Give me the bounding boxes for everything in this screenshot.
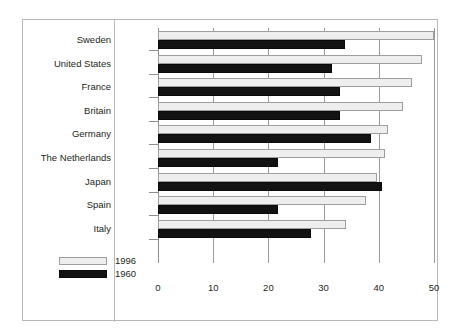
category-label-britain: Britain <box>23 106 111 116</box>
x-tick-label-30: 30 <box>309 282 339 293</box>
category-label-sweden: Sweden <box>23 35 111 45</box>
legend-label-1960: 1960 <box>115 268 136 279</box>
category-tick-2 <box>149 97 158 98</box>
chart-page: SwedenUnited StatesFranceBritainGermanyT… <box>0 0 458 335</box>
category-label-germany: Germany <box>23 129 111 139</box>
category-tick-7 <box>149 215 158 216</box>
category-label-united-states: United States <box>23 59 111 69</box>
bar-1996-the-netherlands <box>158 149 385 158</box>
x-tick-label-0: 0 <box>143 282 173 293</box>
category-tick-0 <box>149 50 158 51</box>
category-label-france: France <box>23 82 111 92</box>
category-tick-8 <box>149 239 158 240</box>
dark-bar-swatch <box>59 270 107 278</box>
bar-1960-sweden <box>158 40 345 49</box>
plot-area: 01020304050 <box>114 20 439 322</box>
x-tick-label-40: 40 <box>364 282 394 293</box>
category-tick-3 <box>149 121 158 122</box>
x-tick-label-50: 50 <box>419 282 449 293</box>
bar-1996-japan <box>158 173 377 182</box>
bar-1960-britain <box>158 111 340 120</box>
category-label-the-netherlands: The Netherlands <box>23 153 111 163</box>
bar-1996-germany <box>158 125 388 134</box>
chart-frame: SwedenUnited StatesFranceBritainGermanyT… <box>22 19 438 321</box>
category-tick-5 <box>149 168 158 169</box>
category-label-spain: Spain <box>23 200 111 210</box>
bar-1996-sweden <box>158 31 434 40</box>
legend-label-1996: 1996 <box>115 255 136 266</box>
category-tick-4 <box>149 144 158 145</box>
bar-1996-italy <box>158 220 346 229</box>
bar-1960-spain <box>158 205 278 214</box>
bar-1960-germany <box>158 134 371 143</box>
category-label-italy: Italy <box>23 224 111 234</box>
bar-1960-united-states <box>158 64 332 73</box>
bar-1960-italy <box>158 229 311 238</box>
top-caption <box>14 0 434 7</box>
bar-1996-united-states <box>158 55 422 64</box>
bar-1960-japan <box>158 182 382 191</box>
bar-1996-britain <box>158 102 403 111</box>
gridline-50 <box>434 28 435 263</box>
bar-1960-the-netherlands <box>158 158 278 167</box>
category-label-japan: Japan <box>23 177 111 187</box>
category-tick-1 <box>149 74 158 75</box>
x-tick-label-20: 20 <box>253 282 283 293</box>
light-bar-swatch <box>59 257 107 265</box>
bar-1996-france <box>158 78 412 87</box>
bar-1996-spain <box>158 196 366 205</box>
bar-1960-france <box>158 87 340 96</box>
category-tick-6 <box>149 192 158 193</box>
x-tick-label-10: 10 <box>198 282 228 293</box>
